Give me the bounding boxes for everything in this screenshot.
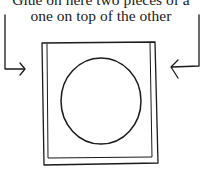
right-arrow-icon — [171, 15, 199, 78]
left-arrow-icon — [5, 15, 25, 75]
diagram-drawing — [0, 0, 202, 171]
inner-frame — [47, 42, 152, 158]
center-circle — [61, 58, 141, 144]
